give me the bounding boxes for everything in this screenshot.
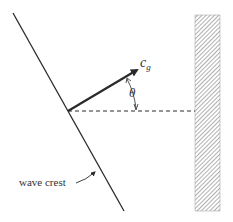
wave-crest-label: wave crest xyxy=(19,176,66,188)
group-velocity-arrow xyxy=(68,70,137,111)
wave-crest-leader xyxy=(76,172,95,183)
group-velocity-label: cg xyxy=(140,55,151,72)
diagram-canvas: cg θ wave crest xyxy=(0,0,233,222)
wall xyxy=(195,15,220,211)
angle-label: θ xyxy=(129,85,136,100)
